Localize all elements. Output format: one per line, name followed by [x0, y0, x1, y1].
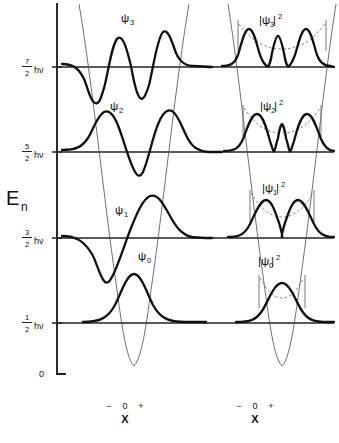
probability-density-psi0-squared: [236, 283, 334, 322]
curve-label-psi0-squared: |ψ 0 | 2: [258, 253, 280, 270]
x-axis-minus-right: −: [236, 401, 241, 411]
curve-label-psi2sq-base: |ψ: [260, 100, 271, 112]
x-axis-plus-right: +: [268, 401, 273, 411]
tick-denominator: 2: [25, 154, 29, 163]
tick-numerator: 5: [25, 142, 29, 151]
curve-label-psi2-sub: 2: [119, 106, 123, 115]
curve-label-psi2: ψ 2: [110, 100, 123, 115]
harmonic-oscillator-figure: 7 2 hν 5 2 hν 3 2 hν 1 2 hν 0 E n: [0, 0, 339, 443]
curve-label-psi0-sub: 0: [147, 256, 151, 265]
x-axis-zero-right: 0: [252, 401, 257, 411]
curve-label-psi2-base: ψ: [110, 100, 118, 112]
curve-label-psi2-squared: |ψ 2 | 2: [260, 98, 283, 115]
tick-unit: hν: [34, 236, 44, 246]
tick-denominator: 2: [25, 240, 29, 249]
turning-point-markers-n2: [243, 105, 321, 136]
curve-label-psi1-sub: 1: [124, 210, 128, 219]
y-tick-label-5-2: 5 2 hν: [22, 142, 44, 163]
curve-label-psi3-base: ψ: [121, 12, 129, 24]
tick-denominator: 2: [25, 325, 29, 334]
classical-probability-n0: [260, 278, 304, 298]
curve-label-psi1sq-bar: |: [276, 182, 279, 194]
x-axis-letter-right: X: [251, 413, 259, 425]
probability-density-psi3-squared: [222, 29, 334, 67]
curve-label-psi1sq-sup: 2: [281, 180, 285, 189]
x-axis-letter-left: X: [121, 413, 129, 425]
curve-label-psi2sq-bar: |: [274, 100, 277, 112]
curve-label-psi1-squared: |ψ 1 | 2: [262, 180, 285, 197]
curve-label-psi3-sub: 3: [130, 18, 134, 27]
wavefunction-psi2: [62, 110, 222, 175]
wavefunction-psi0: [83, 274, 206, 322]
curve-label-psi3sq-base: |ψ: [259, 14, 270, 26]
origin-label-text: 0: [39, 369, 44, 379]
curve-label-psi1: ψ 1: [115, 204, 128, 219]
x-axis-plus-left: +: [138, 401, 143, 411]
y-tick-label-3-2: 3 2 hν: [22, 228, 44, 249]
y-axis-title-sub: n: [21, 200, 28, 214]
y-axis: [57, 4, 65, 374]
wavefunction-psi1: [62, 196, 212, 283]
curve-label-psi2sq-sup: 2: [279, 98, 283, 107]
tick-unit: hν: [34, 65, 44, 75]
curve-label-psi0sq-sup: 2: [276, 253, 280, 262]
tick-numerator: 3: [25, 228, 29, 237]
curve-label-psi3sq-bar: |: [273, 14, 276, 26]
tick-unit: hν: [34, 150, 44, 160]
y-tick-label-1-2: 1 2 hν: [22, 313, 44, 334]
curve-label-psi0: ψ 0: [138, 250, 151, 265]
x-axis-zero-left: 0: [122, 401, 127, 411]
probability-density-psi1-squared: [228, 200, 334, 237]
curve-label-psi3sq-sup: 2: [278, 12, 282, 21]
classical-probability-n2: [244, 108, 320, 133]
x-axis-label-left: − 0 + X: [106, 401, 143, 425]
tick-unit: hν: [34, 321, 44, 331]
curve-label-psi0sq-base: |ψ: [258, 255, 269, 267]
curve-label-psi3: ψ 3: [121, 12, 134, 27]
y-axis-title: E n: [6, 187, 28, 214]
x-axis-minus-left: −: [106, 401, 111, 411]
curve-label-psi1-base: ψ: [115, 204, 123, 216]
tick-denominator: 2: [25, 69, 29, 78]
tick-numerator: 1: [25, 313, 29, 322]
curve-label-psi1sq-base: |ψ: [262, 182, 273, 194]
curve-label-psi0-base: ψ: [138, 250, 146, 262]
tick-numerator: 7: [25, 57, 29, 66]
potential-well-parabola-left: [79, 4, 189, 366]
x-axis-label-right: − 0 + X: [236, 401, 273, 425]
curve-label-psi0sq-bar: |: [271, 255, 274, 267]
y-axis-origin-label: 0: [39, 369, 44, 379]
y-tick-label-7-2: 7 2 hν: [22, 57, 44, 78]
curve-label-psi3-squared: |ψ 3 | 2: [259, 12, 282, 29]
y-axis-title-main: E: [6, 187, 19, 209]
